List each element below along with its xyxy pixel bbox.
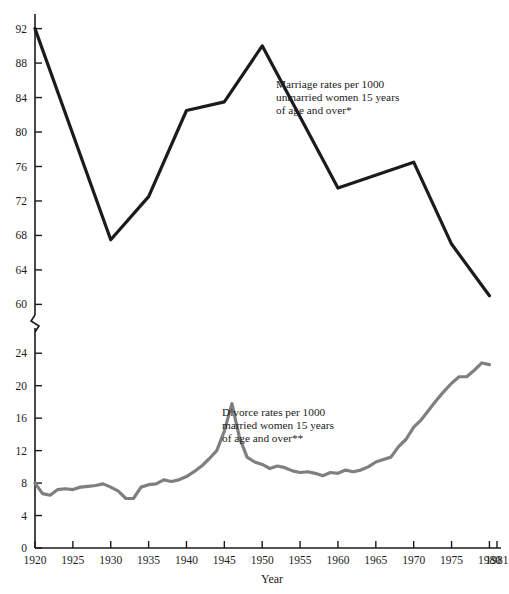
x-axis-tick-label: 1950 bbox=[251, 554, 274, 566]
y-axis-tick-label: 24 bbox=[16, 347, 28, 359]
x-axis-tick-label: 1940 bbox=[175, 554, 198, 566]
marriage-annotation: Marriage rates per 1000unmarried women 1… bbox=[276, 78, 399, 116]
y-axis-tick-label: 4 bbox=[21, 510, 27, 522]
y-axis-tick-label: 8 bbox=[21, 477, 27, 489]
line-chart-figure: 6064687276808488920481216202419201925193… bbox=[0, 0, 509, 594]
y-axis-tick-label: 20 bbox=[16, 380, 28, 392]
y-axis-tick-label: 92 bbox=[16, 23, 28, 35]
tick-labels-layer: 6064687276808488920481216202419201925193… bbox=[16, 23, 509, 566]
x-axis-tick-label: 1960 bbox=[326, 554, 349, 566]
x-axis-tick-label: 1935 bbox=[137, 554, 160, 566]
y-axis-tick-label: 72 bbox=[16, 195, 28, 207]
annotation-line: of age and over** bbox=[222, 432, 304, 444]
x-axis-tick-label: 1975 bbox=[440, 554, 463, 566]
y-axis-tick-label: 16 bbox=[16, 412, 28, 424]
y-axis-tick-label: 12 bbox=[16, 445, 28, 457]
x-axis-tick-label: 1920 bbox=[24, 554, 47, 566]
x-axis-tick-label: 1945 bbox=[213, 554, 236, 566]
annotation-line: of age and over* bbox=[276, 104, 352, 116]
y-axis-tick-label: 76 bbox=[16, 161, 28, 173]
y-axis-tick-label: 64 bbox=[16, 264, 28, 276]
y-axis-tick-label: 88 bbox=[16, 57, 28, 69]
y-axis-tick-label: 84 bbox=[16, 92, 28, 104]
x-axis-tick-label: 1965 bbox=[364, 554, 387, 566]
x-axis-title: Year bbox=[261, 572, 283, 586]
annotation-line: Divorce rates per 1000 bbox=[222, 406, 326, 418]
annotation-line: Marriage rates per 1000 bbox=[276, 78, 385, 90]
x-axis-tick-label: 1981 bbox=[486, 554, 509, 566]
y-axis-tick-label: 60 bbox=[16, 298, 28, 310]
y-axis-tick-label: 68 bbox=[16, 229, 28, 241]
annotation-line: married women 15 years bbox=[222, 419, 334, 431]
chart-container: 6064687276808488920481216202419201925193… bbox=[0, 0, 509, 594]
annotation-line: unmarried women 15 years bbox=[276, 91, 399, 103]
divorce-annotation: Divorce rates per 1000married women 15 y… bbox=[222, 406, 334, 444]
x-axis-tick-label: 1930 bbox=[99, 554, 122, 566]
y-axis-tick-label: 0 bbox=[21, 542, 27, 554]
y-axis-tick-label: 80 bbox=[16, 126, 28, 138]
annotations-layer: Marriage rates per 1000unmarried women 1… bbox=[222, 78, 399, 444]
x-axis-tick-label: 1970 bbox=[402, 554, 425, 566]
x-axis-tick-label: 1925 bbox=[61, 554, 84, 566]
x-axis-tick-label: 1955 bbox=[289, 554, 312, 566]
series-line-marriage-rate bbox=[35, 29, 489, 296]
